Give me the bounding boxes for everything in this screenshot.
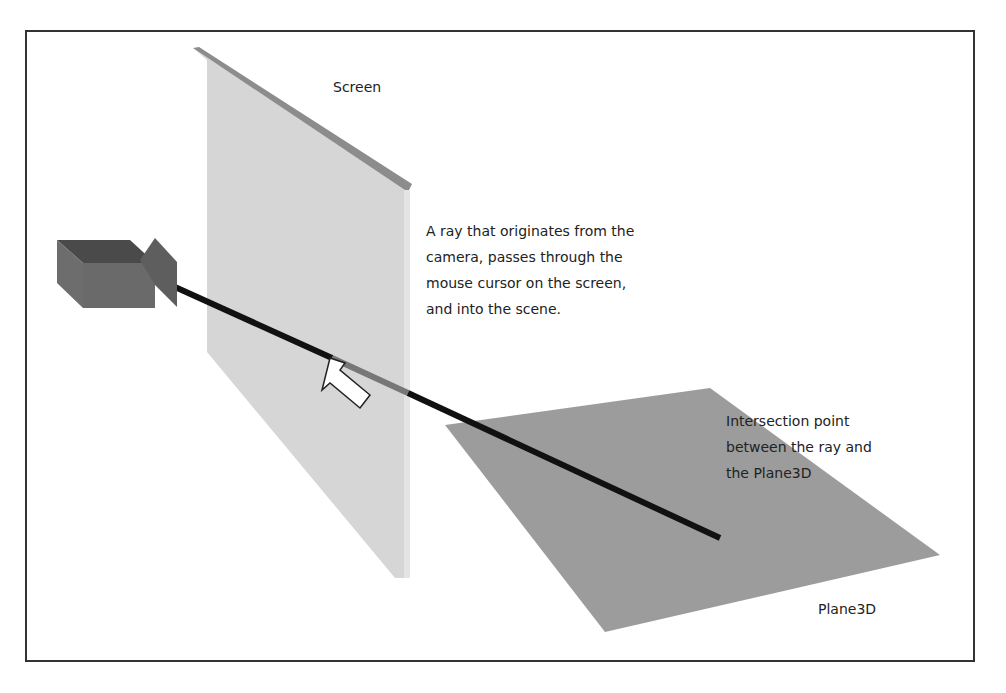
screen-panel-side-edge bbox=[404, 190, 410, 578]
ray-description: A ray that originates from the camera, p… bbox=[426, 218, 634, 322]
screen-label: Screen bbox=[333, 74, 381, 100]
camera-icon bbox=[57, 238, 177, 308]
diagram-canvas bbox=[0, 0, 1006, 693]
plane3d-label: Plane3D bbox=[818, 596, 876, 622]
intersection-label: Intersection point between the ray and t… bbox=[726, 408, 872, 486]
